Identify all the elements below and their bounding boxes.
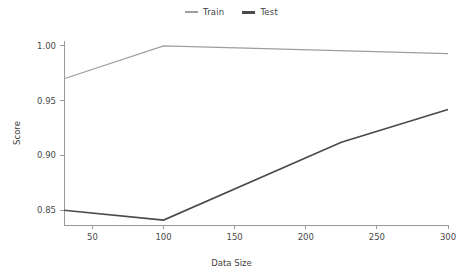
series-line-train [64,46,448,79]
x-tick-label: 50 [87,232,98,242]
y-axis-title: Score [12,121,22,145]
axis-spines [64,41,448,225]
y-tick-label: 0.95 [37,96,56,106]
x-tick-label: 300 [440,232,456,242]
x-axis-title: Data Size [211,258,251,268]
x-axis-ticks: 50100150200250300 [87,225,456,242]
y-tick-label: 0.85 [37,205,56,215]
y-tick-label: 0.90 [37,150,56,160]
data-series-layer [64,46,448,220]
x-tick-label: 250 [369,232,385,242]
x-tick-label: 200 [298,232,314,242]
plot-area: 0.850.900.951.00 50100150200250300 Data … [0,0,463,277]
y-axis-ticks: 0.850.900.951.00 [37,41,64,215]
line-chart: Train Test 0.850.900.951.00 501001502002… [0,0,463,277]
x-tick-label: 150 [227,232,243,242]
series-line-test [64,109,448,220]
x-tick-label: 100 [155,232,171,242]
y-tick-label: 1.00 [37,41,56,51]
